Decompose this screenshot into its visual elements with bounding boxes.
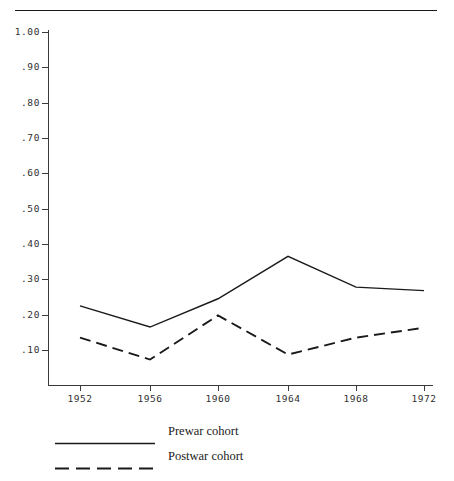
legend-label: Prewar cohort [168, 423, 238, 440]
series-line-prewar [80, 256, 424, 327]
chart-legend: Prewar cohortPostwar cohort [0, 415, 454, 475]
legend-line-swatch-solid [55, 431, 155, 433]
legend-label: Postwar cohort [168, 448, 243, 465]
data-series-layer [0, 0, 454, 481]
chart-figure: 1.00.90.80.70.60.50.40.30.20.10 19521956… [0, 0, 454, 481]
legend-line-swatch-dashed [55, 456, 155, 458]
